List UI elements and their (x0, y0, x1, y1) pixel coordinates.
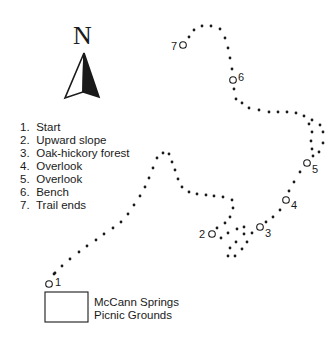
trail-dot (78, 251, 81, 254)
trail-dot (236, 228, 239, 231)
trail-dot (188, 36, 191, 39)
trail-dot (235, 241, 238, 244)
trail-dot (318, 151, 321, 154)
trail-dot (103, 233, 106, 236)
trail-dot (127, 213, 130, 216)
trail-dot (224, 37, 227, 40)
trail-dot (227, 255, 230, 258)
trail-dot (243, 233, 246, 236)
trail-dot (251, 232, 254, 235)
trail-dot (193, 29, 196, 32)
trail-dot (322, 142, 325, 145)
trail-dot (216, 227, 219, 230)
trail-dot (156, 157, 159, 160)
north-arrow-icon (65, 53, 99, 98)
legend-item-2: 2. Upward slope (20, 134, 130, 147)
trail-dot (311, 148, 314, 151)
legend-item-7: 7. Trail ends (20, 199, 130, 212)
trail-dot (210, 25, 213, 28)
trail-dot (265, 221, 268, 224)
trail-dot (227, 232, 230, 235)
trail-dot (112, 227, 115, 230)
trail-dot (312, 155, 315, 158)
stop-marker-4 (283, 197, 290, 204)
legend-item-3: 3. Oak-hickory forest (20, 147, 130, 160)
north-label: N (73, 22, 92, 50)
trail-dot (201, 25, 204, 28)
trail-dot (168, 153, 171, 156)
trail-dot (279, 209, 282, 212)
trail-dot (311, 131, 314, 134)
stop-label-3: 3 (265, 228, 271, 239)
trail-dot (246, 241, 249, 244)
trail-dot (248, 107, 251, 110)
trail-dot (229, 57, 232, 60)
trail-dot (227, 47, 230, 50)
trail-dot (177, 178, 180, 181)
legend-item-1: 1. Start (20, 121, 130, 134)
trail-dot (219, 28, 222, 31)
trail-dot (86, 245, 89, 248)
trail-dot (233, 88, 236, 91)
trail-dot (120, 221, 123, 224)
trail-dot (319, 124, 322, 127)
trail-dot (61, 265, 64, 268)
stop-marker-6 (230, 77, 237, 84)
trail-dot (303, 115, 306, 118)
stop-marker-2 (209, 231, 216, 238)
picnic-grounds-line2: Picnic Grounds (94, 309, 179, 322)
picnic-grounds-rect (45, 292, 88, 322)
trail-dot (235, 98, 238, 101)
trail-dot (133, 204, 136, 207)
stop-marker-1 (46, 281, 53, 288)
trail-dot (54, 272, 57, 275)
trail-dot (139, 195, 142, 198)
trail-dot (277, 111, 280, 114)
trail-dot (144, 186, 147, 189)
trail-dot (234, 255, 237, 258)
trail-dot (268, 111, 271, 114)
stop-label-6: 6 (238, 72, 244, 83)
trail-dot (152, 167, 155, 170)
legend-item-6: 6. Bench (20, 186, 130, 199)
stop-label-2: 2 (199, 229, 205, 240)
trail-dot (232, 207, 235, 210)
trail-dot (205, 194, 208, 197)
trail-dot (229, 216, 232, 219)
trail-dot (69, 258, 72, 261)
trail-dot (288, 190, 291, 193)
trail-dot (322, 131, 325, 134)
trail-dot (162, 152, 165, 155)
stop-label-4: 4 (291, 200, 297, 211)
trail-dot (171, 161, 174, 164)
stop-marker-5 (304, 160, 311, 167)
trail-dot (311, 119, 314, 122)
trail-dot (231, 68, 234, 71)
stop-marker-7 (180, 42, 187, 49)
trail-dot (310, 140, 313, 143)
trail-dot (231, 199, 234, 202)
picnic-grounds-label: McCann Springs Picnic Grounds (94, 296, 179, 322)
trail-legend: 1. Start 2. Upward slope 3. Oak-hickory … (20, 121, 130, 212)
trail-dot (243, 226, 246, 229)
trail-dot (95, 239, 98, 242)
picnic-grounds-line1: McCann Springs (94, 296, 179, 309)
trail-dot (241, 102, 244, 105)
stop-label-5: 5 (312, 164, 318, 175)
trail-dot (241, 248, 244, 251)
trail-dot (293, 181, 296, 184)
legend-item-4: 4. Overlook (20, 160, 130, 173)
stop-label-1: 1 (55, 277, 61, 288)
trail-dot (174, 169, 177, 172)
stop-marker-3 (257, 224, 264, 231)
trail-dot (181, 186, 184, 189)
trail-dot (188, 191, 191, 194)
trail-dot (286, 111, 289, 114)
trail-dot (220, 237, 223, 240)
trail-dot (196, 193, 199, 196)
trail-dot (148, 177, 151, 180)
trail-dot (308, 123, 311, 126)
legend-item-5: 5. Overlook (20, 173, 130, 186)
trail-dot (224, 222, 227, 225)
trail-dot (299, 171, 302, 174)
